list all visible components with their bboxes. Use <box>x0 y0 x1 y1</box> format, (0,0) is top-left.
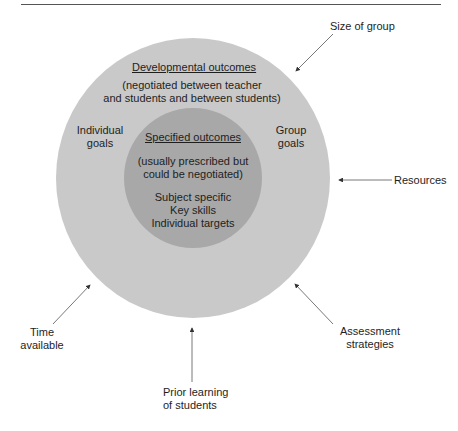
prior-learning-label-1: Prior learning <box>163 386 243 399</box>
time-available-label-2: available <box>17 339 67 352</box>
resources-label: Resources <box>394 174 454 187</box>
time-available-arrow <box>53 285 90 324</box>
size-of-group-label: Size of group <box>330 20 410 33</box>
size-of-group-arrow <box>296 34 333 71</box>
assessment-strategies-label-1: Assessment <box>330 325 410 338</box>
assessment-strategies-label-2: strategies <box>330 338 410 351</box>
prior-learning-label-2: of students <box>163 399 243 412</box>
time-available-label-1: Time <box>17 326 67 339</box>
influence-arrows <box>0 0 458 431</box>
assessment-strategies-arrow <box>295 284 333 324</box>
